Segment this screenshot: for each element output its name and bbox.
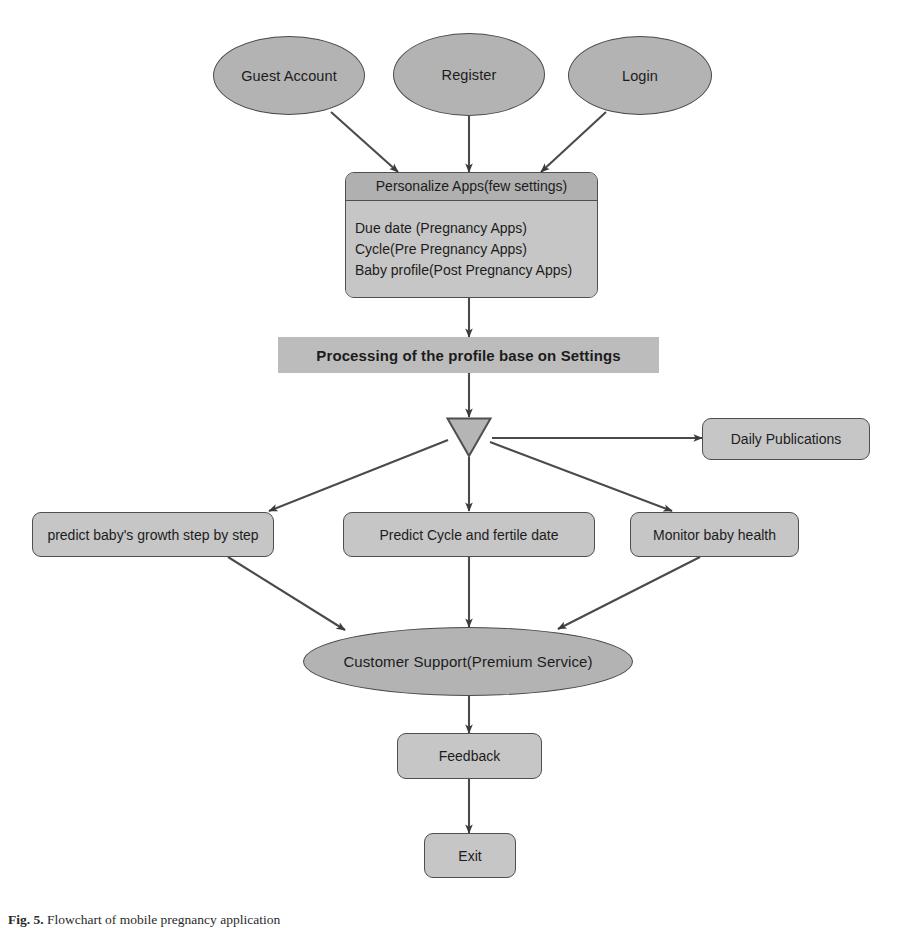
node-personalize-apps-body: Due date (Pregnancy Apps) Cycle(Pre Preg…	[346, 201, 597, 297]
node-login-label: Login	[622, 68, 658, 84]
node-daily-publications-label: Daily Publications	[731, 431, 842, 447]
node-guest-account-label: Guest Account	[241, 68, 337, 84]
node-monitor-baby-health[interactable]: Monitor baby health	[630, 512, 799, 557]
node-customer-support-label: Customer Support(Premium Service)	[343, 653, 592, 670]
node-monitor-baby-health-label: Monitor baby health	[653, 527, 776, 543]
node-processing-bar-label: Processing of the profile base on Settin…	[316, 347, 620, 364]
node-customer-support[interactable]: Customer Support(Premium Service)	[303, 627, 633, 696]
figure-caption-prefix: Fig. 5.	[8, 912, 44, 927]
node-predict-growth[interactable]: predict baby's growth step by step	[32, 512, 274, 557]
node-exit[interactable]: Exit	[424, 833, 516, 878]
node-guest-account[interactable]: Guest Account	[213, 36, 365, 115]
node-predict-growth-label: predict baby's growth step by step	[47, 527, 258, 543]
node-feedback[interactable]: Feedback	[397, 733, 542, 779]
node-predict-cycle-label: Predict Cycle and fertile date	[380, 527, 559, 543]
personalize-line-cycle: Cycle(Pre Pregnancy Apps)	[355, 239, 597, 260]
figure-caption-text: Flowchart of mobile pregnancy applicatio…	[47, 912, 280, 927]
node-exit-label: Exit	[458, 848, 481, 864]
edge-monitor-to-support	[558, 557, 700, 629]
node-login[interactable]: Login	[568, 36, 712, 115]
node-personalize-apps-header: Personalize Apps(few settings)	[346, 173, 597, 201]
node-register-label: Register	[442, 67, 497, 83]
edge-growth-to-support	[228, 557, 345, 630]
edge-fork-to-growth	[269, 440, 448, 511]
edge-fork-to-monitor	[490, 442, 672, 511]
node-processing-bar[interactable]: Processing of the profile base on Settin…	[278, 337, 659, 373]
fork-triangle-icon	[445, 416, 493, 458]
node-fork-triangle[interactable]	[445, 416, 493, 458]
node-register[interactable]: Register	[393, 33, 545, 116]
node-feedback-label: Feedback	[439, 748, 500, 764]
node-personalize-apps[interactable]: Personalize Apps(few settings) Due date …	[345, 172, 598, 298]
node-daily-publications[interactable]: Daily Publications	[702, 418, 870, 460]
edge-guest-to-personalize	[331, 112, 398, 172]
personalize-line-baby-profile: Baby profile(Post Pregnancy Apps)	[355, 260, 597, 281]
node-predict-cycle[interactable]: Predict Cycle and fertile date	[343, 512, 595, 557]
personalize-line-due-date: Due date (Pregnancy Apps)	[355, 218, 597, 239]
figure-caption: Fig. 5. Flowchart of mobile pregnancy ap…	[8, 912, 280, 928]
edge-login-to-personalize	[541, 112, 606, 172]
